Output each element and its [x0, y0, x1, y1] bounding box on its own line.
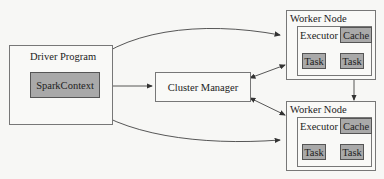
cache-box: Cache	[340, 27, 372, 43]
task-box: Task	[302, 144, 326, 160]
driver-program-title: Driver Program	[30, 51, 96, 62]
task-box: Task	[340, 144, 364, 160]
worker-node-box: Worker Node Executor Cache Task Task	[286, 101, 376, 171]
executor-box: Executor Cache Task Task	[297, 26, 372, 76]
worker-node-title: Worker Node	[290, 104, 347, 115]
cluster-manager-box: Cluster Manager	[155, 72, 251, 102]
task-box: Task	[302, 53, 326, 69]
executor-box: Executor Cache Task Task	[297, 117, 372, 167]
arrow-cluster-worker1	[250, 65, 285, 78]
cache-box: Cache	[340, 118, 372, 134]
worker-node-title: Worker Node	[290, 13, 347, 24]
worker-node-box: Worker Node Executor Cache Task Task	[286, 10, 376, 80]
driver-program-box: Driver Program SparkContext	[9, 45, 113, 125]
task-box: Task	[340, 53, 364, 69]
arrow-cluster-worker2	[250, 98, 285, 115]
executor-label: Executor	[300, 121, 338, 132]
executor-label: Executor	[300, 30, 338, 41]
spark-context-box: SparkContext	[30, 72, 100, 98]
